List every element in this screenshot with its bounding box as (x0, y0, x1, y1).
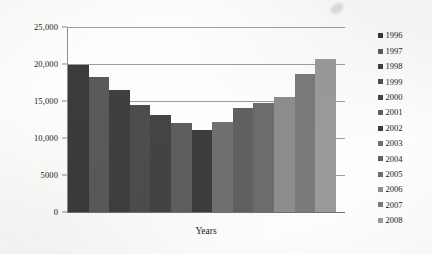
legend-swatch-icon (378, 64, 383, 69)
legend-item[interactable]: 2006 (378, 182, 432, 197)
bar (171, 123, 192, 212)
legend-item-label: 2000 (386, 93, 403, 102)
legend-item-label: 2007 (386, 201, 403, 210)
x-axis-line (67, 212, 345, 213)
legend-swatch-icon (378, 218, 383, 223)
legend-item-label: 2008 (386, 216, 403, 225)
y-axis-tick-label: 15,000 (34, 96, 58, 106)
legend-item[interactable]: 2008 (378, 213, 432, 228)
legend-item-label: 2006 (386, 185, 403, 194)
bar (89, 77, 110, 212)
bar (253, 103, 274, 212)
legend-swatch-icon (378, 95, 383, 100)
bar (295, 74, 316, 212)
bar (233, 108, 254, 212)
x-axis-title: Years (67, 226, 345, 236)
legend-swatch-icon (378, 202, 383, 207)
y-axis-tick-label: 10,000 (34, 133, 58, 143)
legend-swatch-icon (378, 141, 383, 146)
legend-swatch-icon (378, 156, 383, 161)
y-axis-tick-label: 5000 (41, 170, 58, 180)
y-axis-tick-label: 25,000 (34, 22, 58, 32)
bar (315, 59, 336, 212)
legend-item[interactable]: 2007 (378, 197, 432, 212)
legend-swatch-icon (378, 126, 383, 131)
y-axis-tick-label: 20,000 (34, 59, 58, 69)
bar (68, 65, 89, 212)
legend-item-label: 1996 (386, 31, 403, 40)
plot-area: 0500010,00015,00020,00025,000 Years (0, 0, 432, 254)
legend-item-label: 1997 (386, 47, 403, 56)
legend-item-label: 2002 (386, 124, 403, 133)
legend-item-label: 1998 (386, 62, 403, 71)
legend-item-label: 2003 (386, 139, 403, 148)
legend-item[interactable]: 2004 (378, 151, 432, 166)
bar (109, 90, 130, 212)
legend-item[interactable]: 2001 (378, 105, 432, 120)
bar (212, 122, 233, 212)
bar (192, 130, 213, 212)
y-axis-tick-label: 0 (54, 207, 58, 217)
y-axis: 0500010,00015,00020,00025,000 (0, 0, 66, 254)
bar (274, 97, 295, 212)
legend-item[interactable]: 2005 (378, 167, 432, 182)
chart-legend: 1996199719981999200020012002200320042005… (378, 28, 432, 228)
legend-swatch-icon (378, 187, 383, 192)
legend-item-label: 2001 (386, 108, 403, 117)
bar-chart: 0500010,00015,00020,00025,000 Years 1996… (0, 0, 432, 254)
legend-item[interactable]: 2003 (378, 136, 432, 151)
legend-item[interactable]: 1996 (378, 28, 432, 43)
legend-item-label: 1999 (386, 78, 403, 87)
bar (150, 115, 171, 212)
legend-swatch-icon (378, 49, 383, 54)
legend-item-label: 2005 (386, 170, 403, 179)
legend-item[interactable]: 2000 (378, 90, 432, 105)
legend-item[interactable]: 1998 (378, 59, 432, 74)
bar-series (68, 27, 336, 212)
legend-swatch-icon (378, 33, 383, 38)
legend-swatch-icon (378, 172, 383, 177)
legend-swatch-icon (378, 79, 383, 84)
legend-item[interactable]: 2002 (378, 120, 432, 135)
legend-item[interactable]: 1999 (378, 74, 432, 89)
bar (130, 105, 151, 212)
legend-item-label: 2004 (386, 155, 403, 164)
legend-item[interactable]: 1997 (378, 43, 432, 58)
legend-swatch-icon (378, 110, 383, 115)
